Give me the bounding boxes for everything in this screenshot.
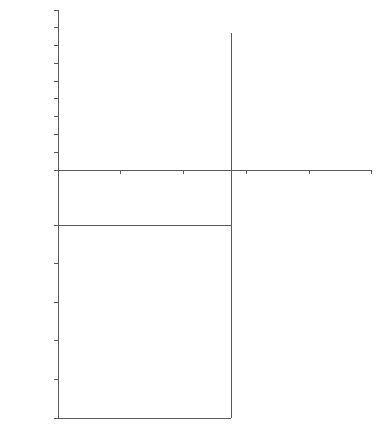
area-y-ticks: [54, 225, 58, 418]
risk-return-chart: [0, 0, 392, 432]
y-ticks: [54, 10, 58, 170]
x-ticks: [58, 170, 372, 174]
